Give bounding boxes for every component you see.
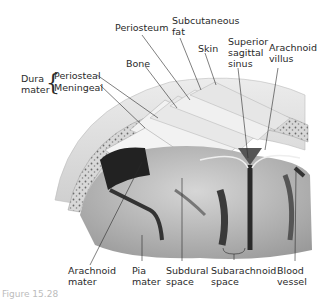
label-arachnoid-mater: Arachnoid mater [68, 265, 116, 287]
label-periosteal: Periosteal [54, 70, 101, 81]
label-periosteum: Periosteum [115, 22, 168, 33]
label-arachnoid-villus: Arachnoid villus [269, 42, 317, 64]
label-pia-mater: Pia mater [132, 265, 161, 287]
label-bone: Bone [126, 58, 150, 69]
figure-caption: Figure 15.28 [2, 289, 58, 299]
label-subcutaneous-fat: Subcutaneous fat [172, 15, 240, 37]
label-skin: Skin [198, 43, 218, 54]
label-subdural-space: Subdural space [166, 265, 209, 287]
label-superior-sagittal-sinus: Superior sagittal sinus [228, 36, 268, 69]
label-blood-vessel: Blood vessel [277, 265, 307, 287]
label-subarachnoid-space: Subarachnoid space [211, 265, 276, 287]
label-meningeal: Meningeal [54, 82, 103, 93]
